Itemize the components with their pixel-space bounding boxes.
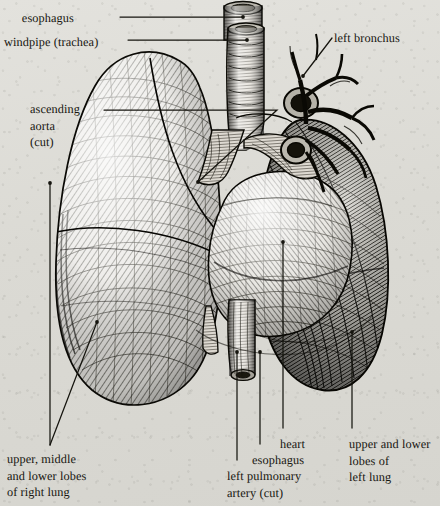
leader-esophagus-bottom-endpoint xyxy=(258,350,262,354)
leader-left-bronchus-endpoint xyxy=(301,74,305,78)
label-left-bronchus: left bronchus xyxy=(334,30,400,47)
leader-left-lung-lobes-endpoint xyxy=(350,330,354,334)
anatomical-figure: esophaguswindpipe (trachea)left bronchus… xyxy=(0,0,440,506)
anatomy-illustration xyxy=(0,0,440,506)
label-ascending-aorta: ascending aorta (cut) xyxy=(30,101,80,151)
label-windpipe-trachea: windpipe (trachea) xyxy=(4,34,98,51)
leader-left-pulmonary-artery-endpoint xyxy=(235,350,239,354)
label-esophagus-top: esophagus xyxy=(22,10,74,27)
esophagus-lower xyxy=(228,300,255,380)
label-left-lung-lobes: upper and lower lobes of left lung xyxy=(349,436,430,486)
leader-heart-endpoint xyxy=(281,240,285,244)
label-esophagus-bottom: esophagus xyxy=(252,452,304,469)
label-left-pulmonary-artery: left pulmonary artery (cut) xyxy=(227,468,301,501)
leader-ascending-aorta-endpoint xyxy=(196,180,200,184)
leader-esophagus-top-endpoint xyxy=(241,15,245,19)
leader-right-lung-lobes-b-endpoint xyxy=(95,320,99,324)
right-lung xyxy=(40,40,240,420)
leader-right-lung-lobes-a-endpoint xyxy=(48,181,52,185)
label-heart: heart xyxy=(280,436,305,453)
label-right-lung-lobes: upper, middle and lower lobes of right l… xyxy=(7,451,86,501)
leader-windpipe-endpoint xyxy=(245,38,249,42)
